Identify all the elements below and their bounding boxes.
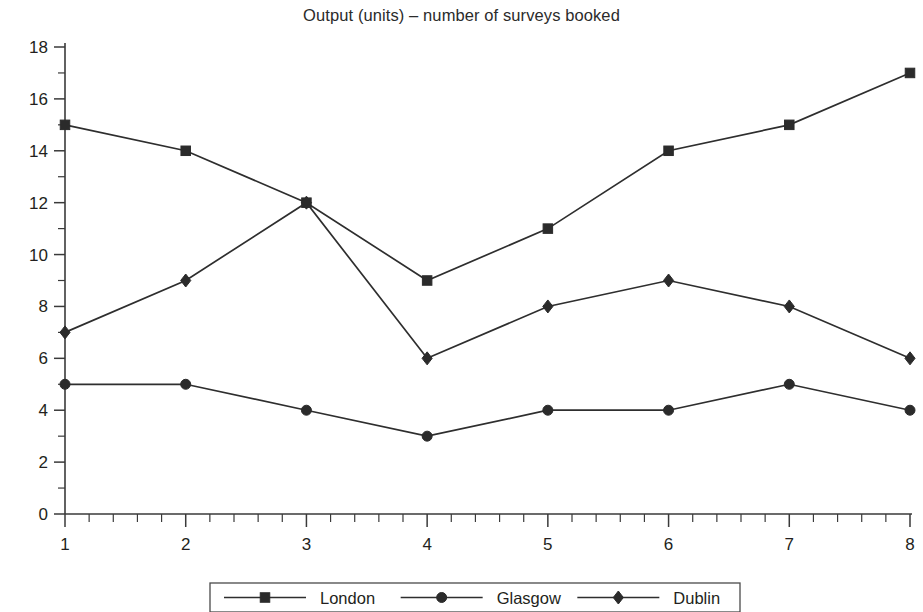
data-point-london-8 (905, 68, 915, 78)
y-axis-tick-label: 6 (39, 349, 48, 368)
y-axis-tick-label: 12 (29, 194, 48, 213)
y-axis-tick-label: 16 (29, 90, 48, 109)
x-axis-tick-label: 1 (60, 535, 69, 554)
y-axis-tick-label: 2 (39, 453, 48, 472)
x-axis-tick-label: 3 (302, 535, 311, 554)
data-point-london-2 (181, 146, 191, 156)
y-axis-tick-label: 14 (29, 142, 48, 161)
data-point-glasgow-3 (301, 405, 311, 415)
data-point-dublin-6 (664, 274, 674, 287)
data-point-glasgow-1 (60, 379, 70, 389)
data-point-glasgow-7 (784, 379, 794, 389)
legend-label-glasgow: Glasgow (497, 589, 561, 607)
data-point-london-4 (422, 276, 432, 286)
series-dublin (60, 196, 915, 365)
y-axis-tick-label: 10 (29, 246, 48, 265)
x-axis-tick-label: 6 (664, 535, 673, 554)
square-marker-icon (260, 593, 270, 603)
data-point-dublin-5 (543, 300, 553, 313)
data-point-dublin-2 (181, 274, 191, 287)
y-axis-tick-label: 0 (39, 505, 48, 524)
series-line-london (65, 73, 910, 281)
x-axis-tick-label: 5 (543, 535, 552, 554)
data-point-london-7 (785, 120, 795, 130)
series-line-glasgow (65, 384, 910, 436)
legend-label-london: London (320, 589, 375, 607)
line-chart: Output (units) – number of surveys booke… (0, 0, 923, 612)
chart-plot-area: 02468101214161812345678LondonGlasgowDubl… (0, 0, 923, 612)
data-point-glasgow-4 (422, 431, 432, 441)
data-point-dublin-1 (60, 326, 70, 339)
circle-marker-icon (437, 593, 447, 603)
data-point-glasgow-5 (543, 405, 553, 415)
legend-label-dublin: Dublin (673, 589, 720, 607)
series-london (60, 68, 915, 285)
y-axis-tick-label: 8 (39, 297, 48, 316)
data-point-london-6 (664, 146, 674, 156)
data-point-glasgow-6 (664, 405, 674, 415)
x-axis-tick-label: 2 (181, 535, 190, 554)
x-axis-tick-label: 4 (422, 535, 431, 554)
data-point-london-5 (543, 224, 553, 234)
data-point-dublin-8 (905, 352, 915, 365)
data-point-glasgow-2 (181, 379, 191, 389)
y-axis-tick-label: 4 (39, 401, 48, 420)
series-glasgow (60, 379, 915, 441)
data-point-dublin-7 (784, 300, 794, 313)
data-point-glasgow-8 (905, 405, 915, 415)
data-point-london-1 (60, 120, 70, 130)
x-axis-tick-label: 8 (905, 535, 914, 554)
y-axis-tick-label: 18 (29, 38, 48, 57)
series-line-dublin (65, 203, 910, 359)
x-axis-tick-label: 7 (785, 535, 794, 554)
